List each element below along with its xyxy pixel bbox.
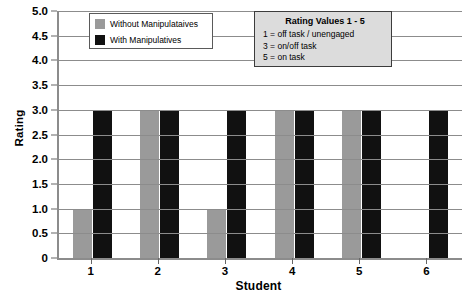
y-tick-label: 4.5 xyxy=(32,30,48,42)
gridline xyxy=(59,135,462,136)
y-tick-label: 1.5 xyxy=(32,178,48,190)
x-tick-label: 5 xyxy=(356,265,362,277)
info-box-line-1: 1 = off task / unengaged xyxy=(263,29,387,41)
chart-legend: Without Manipulataives With Manipulative… xyxy=(89,13,213,49)
x-tick-label: 2 xyxy=(155,265,161,277)
y-axis-ticks: 5.04.54.03.53.02.52.01.51.00.50 xyxy=(0,0,52,301)
y-tick-label: 3.5 xyxy=(32,79,48,91)
legend-swatch-gray-icon xyxy=(95,19,105,29)
x-tick-mark xyxy=(225,258,226,264)
x-tick-label: 4 xyxy=(289,265,295,277)
y-tick-label: 2.0 xyxy=(32,153,48,165)
legend-label-without-manipulatives: Without Manipulataives xyxy=(110,19,198,29)
x-tick-label: 1 xyxy=(87,265,93,277)
gridline xyxy=(59,184,462,185)
x-tick-mark xyxy=(359,258,360,264)
y-tick-label: 5.0 xyxy=(32,5,48,17)
y-tick-label: 3.0 xyxy=(32,104,48,116)
x-axis-title: Student xyxy=(57,279,460,293)
gridline xyxy=(59,233,462,234)
x-tick-label: 6 xyxy=(423,265,429,277)
bar-chart: Rating 5.04.54.03.53.02.52.01.51.00.50 1… xyxy=(0,0,475,301)
y-tick-label: 1.0 xyxy=(32,203,48,215)
rating-values-info-box: Rating Values 1 - 5 1 = off task / uneng… xyxy=(254,11,392,67)
y-tick-label: 0 xyxy=(42,252,48,264)
info-box-title: Rating Values 1 - 5 xyxy=(263,15,387,27)
legend-item-with-manipulatives: With Manipulatives xyxy=(95,33,208,47)
x-tick-mark xyxy=(158,258,159,264)
info-box-line-3: 5 = on task xyxy=(263,52,387,64)
gridline xyxy=(59,209,462,210)
legend-label-with-manipulatives: With Manipulatives xyxy=(110,35,181,45)
x-tick-mark xyxy=(426,258,427,264)
x-tick-mark xyxy=(292,258,293,264)
gridline xyxy=(59,159,462,160)
legend-item-without-manipulatives: Without Manipulataives xyxy=(95,17,208,31)
gridline xyxy=(59,110,462,111)
y-tick-label: 2.5 xyxy=(32,129,48,141)
x-tick-mark xyxy=(91,258,92,264)
legend-swatch-black-icon xyxy=(95,35,105,45)
gridline xyxy=(59,85,462,86)
y-tick-label: 0.5 xyxy=(32,227,48,239)
y-tick-label: 4.0 xyxy=(32,54,48,66)
x-tick-label: 3 xyxy=(222,265,228,277)
info-box-line-2: 3 = on/off task xyxy=(263,41,387,53)
